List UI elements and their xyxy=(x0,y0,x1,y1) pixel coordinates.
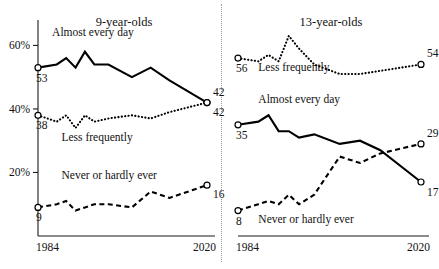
series-line-solid-0 xyxy=(38,52,207,103)
series-start-marker-2 xyxy=(235,208,241,214)
series-line-dashed-2 xyxy=(238,144,421,211)
y-tick-label-60%: 60% xyxy=(9,39,31,51)
series-end-marker-2 xyxy=(418,141,424,147)
chart-title: 13-year-olds xyxy=(300,15,363,29)
x-tick-label-end: 2020 xyxy=(407,241,430,253)
series-start-value-2: 8 xyxy=(236,215,242,227)
series-start-value-0: 56 xyxy=(236,62,248,74)
series-start-value-0: 53 xyxy=(36,72,48,84)
chart-panel-9-year-olds: 9-year-olds20%40%60%198420205342Almost e… xyxy=(0,0,221,269)
series-line-solid-1 xyxy=(238,115,421,182)
series-start-marker-2 xyxy=(35,204,41,210)
series-name-label-1: Less frequently xyxy=(61,131,132,144)
series-name-label-2: Never or hardly ever xyxy=(258,213,354,226)
x-tick-label-start: 1984 xyxy=(236,241,259,253)
series-end-value-2: 29 xyxy=(427,127,439,139)
series-start-marker-0 xyxy=(35,65,41,71)
series-end-marker-1 xyxy=(204,100,210,106)
series-end-marker-0 xyxy=(418,61,424,67)
y-tick-label-40%: 40% xyxy=(9,103,31,115)
series-name-label-1: Almost every day xyxy=(258,93,340,106)
x-tick-label-end: 2020 xyxy=(193,241,216,253)
chart-svg-0: 9-year-olds20%40%60%198420205342Almost e… xyxy=(0,0,221,269)
chart-panel-13-year-olds: 13-year-olds198420205654Less frequently3… xyxy=(221,0,439,269)
series-start-marker-0 xyxy=(235,55,241,61)
series-start-value-1: 35 xyxy=(236,129,248,141)
series-start-marker-1 xyxy=(235,122,241,128)
figure-root: 9-year-olds20%40%60%198420205342Almost e… xyxy=(0,0,439,269)
series-end-value-1: 17 xyxy=(427,186,439,198)
series-line-dotted-1 xyxy=(38,103,207,128)
series-start-value-1: 38 xyxy=(36,119,48,131)
series-name-label-0: Almost every day xyxy=(52,26,134,39)
series-start-value-2: 9 xyxy=(36,211,42,223)
series-end-value-0: 54 xyxy=(427,47,439,59)
series-line-dashed-2 xyxy=(38,185,207,210)
series-name-label-0: Less frequently xyxy=(258,61,329,74)
chart-svg-1: 13-year-olds198420205654Less frequently3… xyxy=(221,0,439,269)
series-end-marker-1 xyxy=(418,179,424,185)
y-tick-label-20%: 20% xyxy=(9,166,31,178)
x-tick-label-start: 1984 xyxy=(36,241,59,253)
series-name-label-2: Never or hardly ever xyxy=(61,169,157,182)
series-start-marker-1 xyxy=(35,112,41,118)
series-end-marker-2 xyxy=(204,182,210,188)
